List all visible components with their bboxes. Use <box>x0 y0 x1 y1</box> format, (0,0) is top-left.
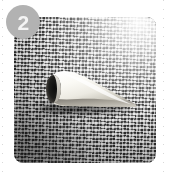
left-dotted-guide-rule <box>2 0 3 172</box>
step-number-label: 2 <box>17 11 28 32</box>
white-cone-object <box>40 68 138 110</box>
step-photo <box>14 17 156 163</box>
object-layer <box>14 17 156 163</box>
figure-panel: 2 <box>0 0 169 172</box>
right-dotted-guide-rule <box>163 0 164 172</box>
step-number-badge: 2 <box>6 5 40 39</box>
cone-shape-icon <box>40 68 138 110</box>
